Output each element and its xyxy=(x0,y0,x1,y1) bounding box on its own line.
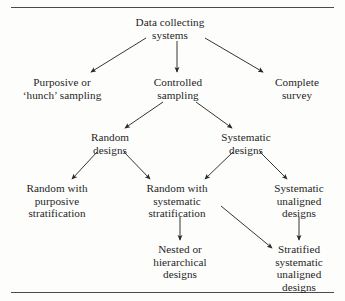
node-systematic-unaligned-designs: Systematic unaligned designs xyxy=(274,182,324,220)
node-random-with-purposive-stratification: Random with purposive stratification xyxy=(26,182,87,220)
node-complete-survey: Complete survey xyxy=(275,76,319,101)
node-controlled-sampling: Controlled sampling xyxy=(154,76,202,101)
top-rule xyxy=(11,7,334,8)
arrow-random-systematic-to-stratified xyxy=(221,206,272,248)
arrow-root-to-purposive xyxy=(91,38,146,72)
node-random-with-systematic-stratification: Random with systematic stratification xyxy=(146,182,207,220)
node-purposive-sampling: Purposive or ‘hunch’ sampling xyxy=(23,76,102,101)
flowchart-figure: Data collecting systems Purposive or ‘hu… xyxy=(0,0,345,301)
node-stratified-systematic-unaligned-designs: Stratified systematic unaligned designs xyxy=(275,243,323,293)
node-random-designs: Random designs xyxy=(91,131,129,156)
node-systematic-designs: Systematic designs xyxy=(221,131,271,156)
arrow-controlled-to-systematic xyxy=(196,102,232,128)
node-root: Data collecting systems xyxy=(136,16,205,41)
arrow-controlled-to-random xyxy=(125,102,163,128)
arrow-root-to-complete xyxy=(205,38,263,72)
node-nested-hierarchical-designs: Nested or hierarchical designs xyxy=(153,243,206,281)
